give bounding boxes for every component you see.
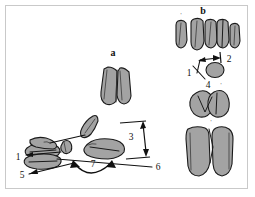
- measurement-label-6: 6: [156, 162, 161, 172]
- measurement-1b-group: 1: [187, 60, 205, 79]
- bone-shaft-left: [186, 127, 210, 176]
- tick-mark-b-left: ': [181, 12, 182, 18]
- panel-label-a: a: [111, 47, 116, 58]
- measurement-label-1: 1: [16, 152, 21, 162]
- tick-mark-lower-mid: ': [211, 119, 212, 125]
- bone-upright-right: [117, 68, 131, 104]
- panel-label-b: b: [200, 5, 206, 16]
- measure-2-right-tick: [220, 52, 221, 63]
- bone-condyle-pair: [190, 91, 229, 118]
- figure-root: a 3 1 5: [0, 0, 255, 197]
- bone-metatarsal-block: [84, 139, 125, 159]
- bone-shaft-right: [212, 127, 233, 176]
- measure-3-arrow-up: [140, 121, 146, 129]
- bone-condyle-right: [208, 91, 229, 118]
- panel-b-group: b ': [176, 5, 240, 176]
- bone-oval-sesamoid: [206, 63, 224, 78]
- phalanx-row-group: [176, 18, 240, 50]
- measure-3-arrow-down: [143, 149, 149, 157]
- measure-3-bottom-baseline: [126, 157, 150, 159]
- bone-upright-pair: [101, 67, 131, 105]
- measure-3-top-baseline: [120, 121, 146, 123]
- phalanx-1: [176, 20, 187, 48]
- phalanx-2: [191, 18, 204, 50]
- bone-small-sesamoid: [61, 141, 72, 154]
- bone-upright-left: [101, 67, 117, 105]
- measure-5-arrow: [29, 169, 38, 174]
- measurement-label-2: 2: [227, 54, 232, 64]
- anatomical-diagram-canvas: a 3 1 5: [0, 0, 255, 197]
- measurement-label-3: 3: [129, 132, 134, 142]
- measure-1b-diagonal: [193, 66, 205, 79]
- measurement-label-4: 4: [206, 80, 211, 90]
- measurement-3-group: 3: [120, 121, 150, 159]
- measurement-label-7: 7: [91, 159, 96, 169]
- bone-midfoot-elongated: [81, 116, 99, 138]
- measurement-label-1b: 1: [187, 68, 192, 78]
- oval-sesamoid-body: [206, 63, 224, 78]
- measurement-label-5: 5: [20, 170, 25, 180]
- panel-a-group: a 3 1 5: [16, 47, 161, 180]
- bone-shaft-pair: [186, 127, 233, 176]
- tick-mark-4-right: ': [221, 82, 222, 88]
